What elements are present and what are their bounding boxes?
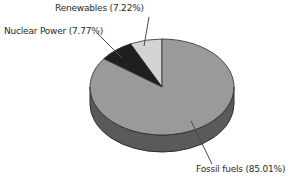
fossil-fuels-slice-label: Fossil fuels (85.01%): [196, 164, 285, 175]
pie-group: [90, 39, 234, 152]
renewables-slice-label: Renewables (7.22%): [55, 3, 144, 14]
nuclear-power-slice-label: Nuclear Power (7.77%): [4, 26, 103, 37]
pie-chart-figure: Renewables (7.22%) Nuclear Power (7.77%)…: [0, 0, 288, 184]
